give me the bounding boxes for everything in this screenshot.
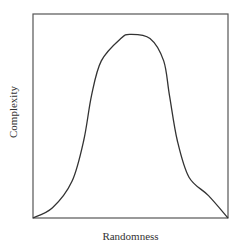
complexity-curve xyxy=(33,34,228,218)
x-axis-label: Randomness xyxy=(33,230,228,242)
y-axis-label: Complexity xyxy=(7,77,19,147)
chart-plot xyxy=(0,0,241,247)
